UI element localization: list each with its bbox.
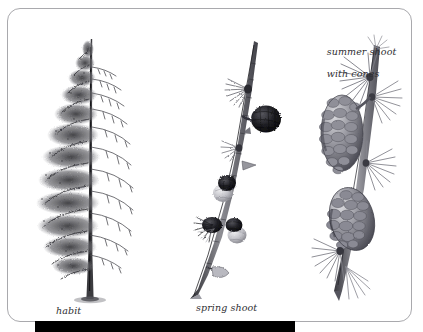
figure-habit: [26, 23, 156, 313]
larch-spring-shoot-icon: [168, 23, 298, 313]
caption-summer-line1: summer shoot: [327, 46, 397, 57]
bottom-black-bar: [35, 321, 295, 332]
figure-spring-shoot: [168, 23, 298, 313]
larch-tree-habit-icon: [26, 23, 156, 313]
caption-habit: habit: [56, 305, 81, 316]
caption-spring-shoot: spring shoot: [196, 302, 257, 313]
plate-card: habit spring shoot summer shoot with con…: [7, 8, 412, 322]
caption-summer-shoot: summer shoot with cones: [308, 35, 396, 90]
illustration-plate: habit spring shoot summer shoot with con…: [0, 0, 423, 332]
caption-summer-line2: with cones: [327, 68, 380, 79]
